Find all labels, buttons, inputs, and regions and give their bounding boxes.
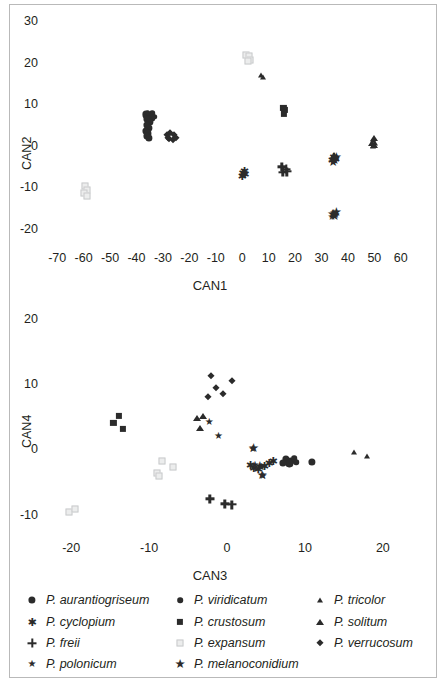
marker-circle-small xyxy=(177,597,183,603)
data-point-p-tricolor xyxy=(364,454,370,459)
legend-label: P. viridicatum xyxy=(194,593,267,607)
data-point-p-cyclopium: ✱ xyxy=(239,165,250,176)
legend-item: P. aurantiogriseum xyxy=(24,592,149,608)
marker-asterisk: ✱ xyxy=(27,616,38,627)
figure-container: CAN2 CAN1 3020100-10-20-70-60-50-40-30-2… xyxy=(0,0,444,683)
data-point-p-melanoconidium: ★ xyxy=(253,460,266,473)
marker-diamond xyxy=(316,639,324,647)
legend-item: P. verrucosum xyxy=(312,635,413,651)
marker-plus xyxy=(28,639,37,648)
data-point-p-freii xyxy=(205,494,214,503)
legend-label: P. tricolor xyxy=(334,593,385,607)
legend-label: P. cyclopium xyxy=(46,615,115,629)
legend-item: P. expansum xyxy=(172,635,265,651)
x-axis-title-can3: CAN3 xyxy=(150,568,270,583)
data-point-p-crustosum xyxy=(116,413,122,419)
legend-item: ★P. melanoconidium xyxy=(172,656,299,672)
data-point-p-expansum xyxy=(83,193,90,200)
data-point-p-crustosum xyxy=(120,426,126,432)
scatter-panel-can3-can4: CAN4 CAN3 20100-10-20-1001020★★★★★★✱✱✱✱✱… xyxy=(0,300,444,590)
legend-label: P. aurantiogriseum xyxy=(46,593,149,607)
legend-label: P. freii xyxy=(46,636,80,650)
legend-item: P. crustosum xyxy=(172,614,265,630)
legend-marker xyxy=(312,592,328,608)
marker-triangle xyxy=(316,619,324,625)
legend-marker xyxy=(172,635,188,651)
legend: P. aurantiogriseum✱P. cyclopiumP. freii★… xyxy=(24,592,424,676)
marker-star-large: ★ xyxy=(174,658,187,671)
legend-item: ✱P. cyclopium xyxy=(24,614,115,630)
y-tick-label: 10 xyxy=(4,378,38,391)
legend-item: P. tricolor xyxy=(312,592,385,608)
data-point-p-solitum xyxy=(196,425,204,431)
legend-label: P. expansum xyxy=(194,636,265,650)
legend-marker xyxy=(172,592,188,608)
data-point-p-freii xyxy=(282,167,291,176)
legend-label: P. polonicum xyxy=(46,657,117,671)
data-point-p-freii xyxy=(227,500,236,509)
data-point-p-viridicatum xyxy=(152,114,158,120)
data-point-p-crustosum xyxy=(110,420,116,426)
plot-area-can1-can2 xyxy=(44,14,414,242)
legend-item: ★P. polonicum xyxy=(24,656,117,672)
legend-label: P. solitum xyxy=(334,615,387,629)
scatter-panel-can1-can2: CAN2 CAN1 3020100-10-20-70-60-50-40-30-2… xyxy=(0,0,444,300)
y-tick-label: 20 xyxy=(4,57,38,70)
data-point-p-tricolor xyxy=(351,450,357,455)
data-point-p-viridicatum xyxy=(294,459,300,465)
x-axis-title-can1: CAN1 xyxy=(150,278,270,293)
data-point-p-expansum xyxy=(159,458,166,465)
data-point-p-polonicum: ★ xyxy=(213,431,223,441)
x-tick-label: -10 xyxy=(134,542,164,555)
legend-marker: ★ xyxy=(172,656,188,672)
data-point-p-cyclopium: ✱ xyxy=(268,455,279,466)
data-point-p-expansum xyxy=(169,463,176,470)
data-point-p-expansum xyxy=(72,506,79,513)
x-tick-label: 0 xyxy=(212,542,242,555)
data-point-p-tricolor xyxy=(260,75,266,80)
data-point-p-polonicum: ★ xyxy=(204,417,214,427)
data-point-p-expansum xyxy=(244,58,251,65)
marker-triangle-small xyxy=(317,598,323,603)
data-point-p-cyclopium: ✱ xyxy=(327,155,338,166)
x-tick-label: 20 xyxy=(368,542,398,555)
legend-item: P. freii xyxy=(24,635,80,651)
y-tick-label: 20 xyxy=(4,313,38,326)
legend-marker xyxy=(172,614,188,630)
legend-marker xyxy=(312,635,328,651)
marker-square xyxy=(177,619,183,625)
y-tick-label: -10 xyxy=(4,509,38,522)
legend-label: P. crustosum xyxy=(194,615,265,629)
x-tick-label: 60 xyxy=(386,252,416,265)
marker-circle xyxy=(28,596,35,603)
x-tick-label: -20 xyxy=(56,542,86,555)
legend-marker xyxy=(312,614,328,630)
legend-marker xyxy=(24,592,40,608)
legend-marker: ★ xyxy=(24,656,40,672)
y-tick-label: -10 xyxy=(4,181,38,194)
marker-star: ★ xyxy=(27,659,37,669)
data-point-p-crustosum xyxy=(281,110,287,116)
data-point-p-expansum xyxy=(156,472,163,479)
y-tick-label: 0 xyxy=(4,443,38,456)
data-point-p-solitum xyxy=(370,142,378,148)
marker-open-square xyxy=(177,640,184,647)
y-tick-label: 30 xyxy=(4,15,38,28)
data-point-p-melanoconidium: ★ xyxy=(247,442,260,455)
legend-label: P. melanoconidium xyxy=(194,657,299,671)
y-tick-label: -20 xyxy=(4,223,38,236)
legend-item: P. viridicatum xyxy=(172,592,267,608)
x-tick-label: 10 xyxy=(290,542,320,555)
legend-marker: ✱ xyxy=(24,614,40,630)
legend-item: P. solitum xyxy=(312,614,387,630)
data-point-p-polonicum: ★ xyxy=(327,212,337,222)
legend-marker xyxy=(24,635,40,651)
data-point-p-viridicatum xyxy=(145,110,151,116)
y-tick-label: 10 xyxy=(4,98,38,111)
y-tick-label: 0 xyxy=(4,140,38,153)
legend-label: P. verrucosum xyxy=(334,636,413,650)
